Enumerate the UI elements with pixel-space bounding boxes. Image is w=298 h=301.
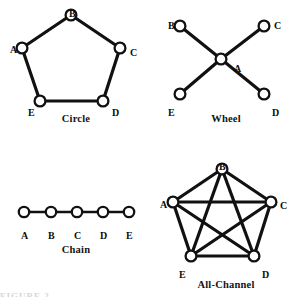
node-label-c: C [74,230,81,241]
node-a [17,43,28,54]
node-c [115,43,126,54]
edge-A-D [221,59,264,94]
node-b [46,207,56,217]
node-label-b: B [219,161,226,172]
edge-A-B [22,15,71,48]
edge-A-E [180,59,221,94]
node-e [175,89,186,100]
node-d [249,251,260,262]
node-a [19,207,29,217]
edge-E-A [22,48,40,101]
node-label-a: A [21,230,29,241]
edge-C-D [103,48,120,101]
edge-B-E [191,169,222,256]
node-e [124,207,134,217]
diagram-chain-canvas: ABCDE [6,152,146,274]
caption-all-channel: All-Channel [156,279,296,290]
node-c [266,197,277,208]
node-label-e: E [126,230,133,241]
edge-A-C [221,26,264,59]
diagram-all-channel-canvas: ABCDE [156,152,296,300]
edge-B-C [71,15,120,48]
node-d [98,207,108,217]
node-e [186,251,197,262]
edge-A-D [173,202,254,256]
node-d [259,89,270,100]
node-a [216,54,227,65]
node-label-b: B [69,8,76,19]
node-c [259,21,270,32]
node-c [72,207,82,217]
caption-wheel: Wheel [156,113,296,124]
node-label-c: C [280,200,287,211]
edge-A-B [180,26,221,59]
figure-page: ABCDE Circle ABCDE Wheel ABCDE Chain ABC… [0,0,298,301]
caption-circle: Circle [6,113,146,124]
diagram-all-channel: ABCDE [156,152,296,300]
node-label-b: B [168,20,175,31]
node-label-a: A [10,44,18,55]
node-label-a: A [234,63,242,74]
caption-chain: Chain [6,244,146,255]
node-label-c: C [274,20,281,31]
node-e [35,96,46,107]
node-label-c: C [130,47,137,58]
edge-E-A [173,202,191,256]
node-label-a: A [160,199,168,210]
cropped-figure-caption: FIGURE 2 [0,292,86,297]
node-b [175,21,186,32]
edge-C-E [191,202,271,256]
edge-B-D [222,169,254,256]
node-a [168,197,179,208]
node-label-b: B [48,230,55,241]
node-label-d: D [100,230,107,241]
diagram-chain: ABCDE [6,152,146,274]
node-d [98,96,109,107]
